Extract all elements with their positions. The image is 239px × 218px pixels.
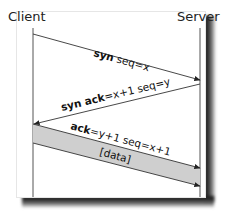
actor-client-label: Client [8, 9, 46, 24]
message-label-syn: syn seq=x [92, 46, 151, 73]
actor-server-label: Server [177, 9, 220, 24]
message-label-syn-ack: syn ack=x+1 seq=y [60, 75, 172, 113]
sequence-diagram: Client Server syn seq=x syn ack=x+1 seq=… [0, 0, 239, 218]
